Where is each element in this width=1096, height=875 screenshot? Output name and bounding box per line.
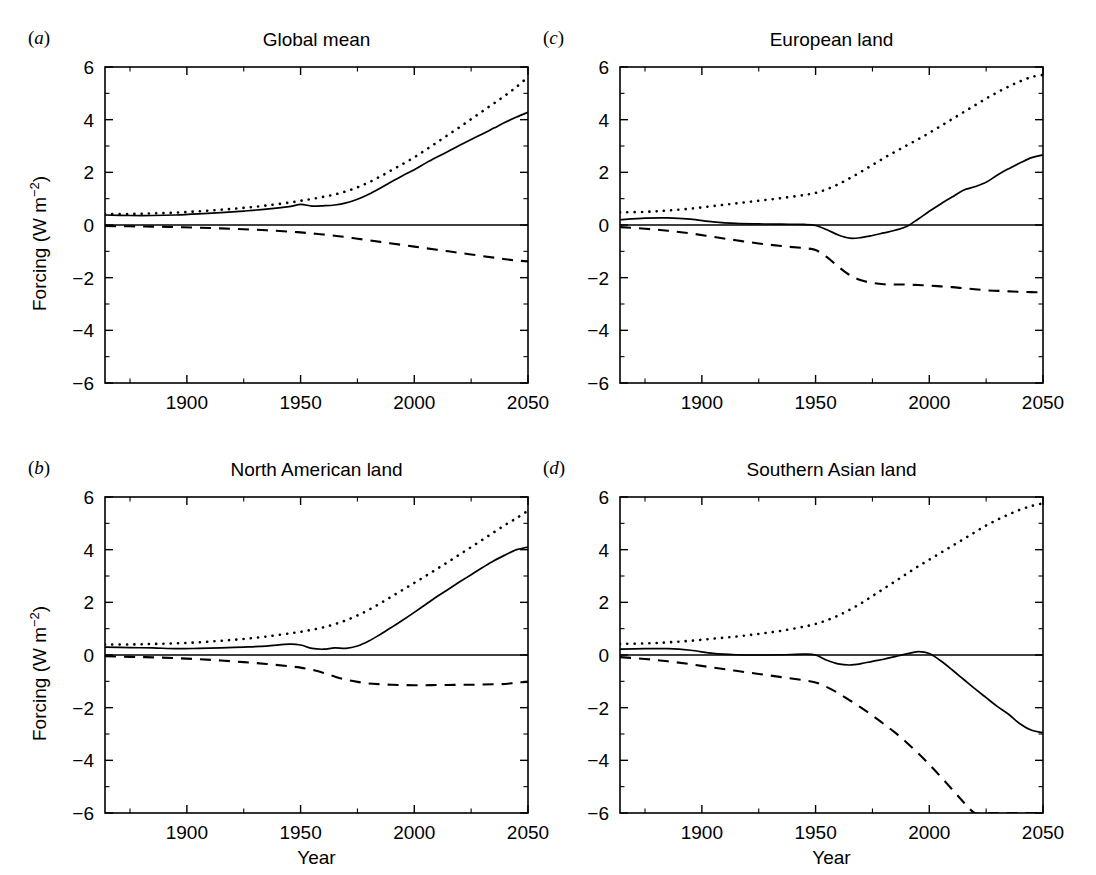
xtick-label: 2050: [507, 822, 549, 843]
ytick-label: −2: [72, 268, 94, 289]
panel-title-c: European land: [620, 29, 1043, 51]
ytick-label: 0: [598, 645, 609, 666]
series-dotted: [105, 511, 528, 645]
panel-label-c: (c): [543, 27, 564, 49]
axis-frame: [105, 67, 528, 383]
ytick-label: −6: [587, 803, 609, 824]
ytick-label: 2: [598, 162, 609, 183]
x-axis-label-b: Year: [105, 847, 528, 869]
series-solid: [105, 547, 528, 649]
ytick-label: 6: [83, 487, 94, 508]
y-axis-label-exponent: −2: [27, 612, 42, 627]
ytick-label: −4: [587, 320, 609, 341]
series-dotted: [620, 503, 1043, 644]
panel-label-d: (d): [543, 457, 565, 479]
paren-close: ): [559, 457, 565, 478]
y-axis-label-b: Forcing (W m−2): [27, 606, 51, 741]
ytick-label: −6: [587, 373, 609, 394]
xtick-label: 1950: [794, 392, 836, 413]
plot-area-b: −6−4−202461900195020002050: [0, 0, 1096, 875]
xtick-label: 2050: [1022, 392, 1064, 413]
y-axis-label-text: Forcing (W m: [29, 627, 50, 741]
panel-letter: c: [549, 27, 557, 48]
xtick-label: 2000: [393, 822, 435, 843]
ytick-label: 2: [83, 162, 94, 183]
ytick-label: −4: [72, 320, 94, 341]
y-axis-label-close: ): [29, 176, 50, 182]
panel-label-a: (a): [28, 27, 50, 49]
xtick-label: 2000: [393, 392, 435, 413]
ytick-label: −2: [587, 268, 609, 289]
plot-area-a: −6−4−202461900195020002050: [0, 0, 1096, 875]
panel-title-a: Global mean: [105, 29, 528, 51]
xtick-label: 2050: [1022, 822, 1064, 843]
ytick-label: −2: [72, 698, 94, 719]
ytick-label: 6: [83, 57, 94, 78]
ytick-label: 4: [598, 110, 609, 131]
xtick-label: 1900: [681, 822, 723, 843]
series-dotted: [105, 77, 528, 214]
plot-area-d: −6−4−202461900195020002050: [0, 0, 1096, 875]
ytick-label: 4: [598, 540, 609, 561]
y-axis-label-close: ): [29, 606, 50, 612]
xtick-label: 2000: [908, 392, 950, 413]
paren-close: ): [44, 457, 50, 478]
panel-letter: a: [34, 27, 44, 48]
ytick-label: 0: [83, 645, 94, 666]
y-axis-label-exponent: −2: [27, 182, 42, 197]
xtick-label: 2050: [507, 392, 549, 413]
ytick-label: 0: [598, 215, 609, 236]
series-dashed: [105, 656, 528, 685]
paren-close: ): [44, 27, 50, 48]
xtick-label: 1950: [279, 822, 321, 843]
xtick-label: 1950: [279, 392, 321, 413]
panel-label-b: (b): [28, 457, 50, 479]
series-solid: [620, 155, 1043, 238]
ytick-label: 6: [598, 57, 609, 78]
paren-close: ): [558, 27, 564, 48]
panel-letter: d: [549, 457, 559, 478]
ytick-label: 4: [83, 110, 94, 131]
plot-area-c: −6−4−202461900195020002050: [0, 0, 1096, 875]
ytick-label: −2: [587, 698, 609, 719]
xtick-label: 1900: [166, 392, 208, 413]
axis-frame: [105, 497, 528, 813]
panel-title-b: North American land: [105, 459, 528, 481]
ytick-label: 4: [83, 540, 94, 561]
xtick-label: 1900: [166, 822, 208, 843]
series-dashed: [620, 227, 1043, 292]
x-axis-label-d: Year: [620, 847, 1043, 869]
ytick-label: −6: [72, 373, 94, 394]
ytick-label: −4: [587, 750, 609, 771]
ytick-label: −4: [72, 750, 94, 771]
panel-letter: b: [34, 457, 44, 478]
series-dashed: [620, 657, 1043, 814]
xtick-label: 2000: [908, 822, 950, 843]
series-solid: [620, 649, 1043, 733]
series-solid: [105, 112, 528, 215]
ytick-label: 6: [598, 487, 609, 508]
series-dotted: [620, 75, 1043, 212]
ytick-label: 0: [83, 215, 94, 236]
y-axis-label-a: Forcing (W m−2): [27, 176, 51, 311]
panel-title-d: Southern Asian land: [620, 459, 1043, 481]
ytick-label: 2: [598, 592, 609, 613]
y-axis-label-text: Forcing (W m: [29, 197, 50, 311]
axis-frame: [620, 497, 1043, 813]
xtick-label: 1950: [794, 822, 836, 843]
series-dashed: [105, 226, 528, 261]
ytick-label: 2: [83, 592, 94, 613]
axis-frame: [620, 67, 1043, 383]
xtick-label: 1900: [681, 392, 723, 413]
forcing-figure: (a)Global mean−6−4−202461900195020002050…: [0, 0, 1096, 875]
ytick-label: −6: [72, 803, 94, 824]
